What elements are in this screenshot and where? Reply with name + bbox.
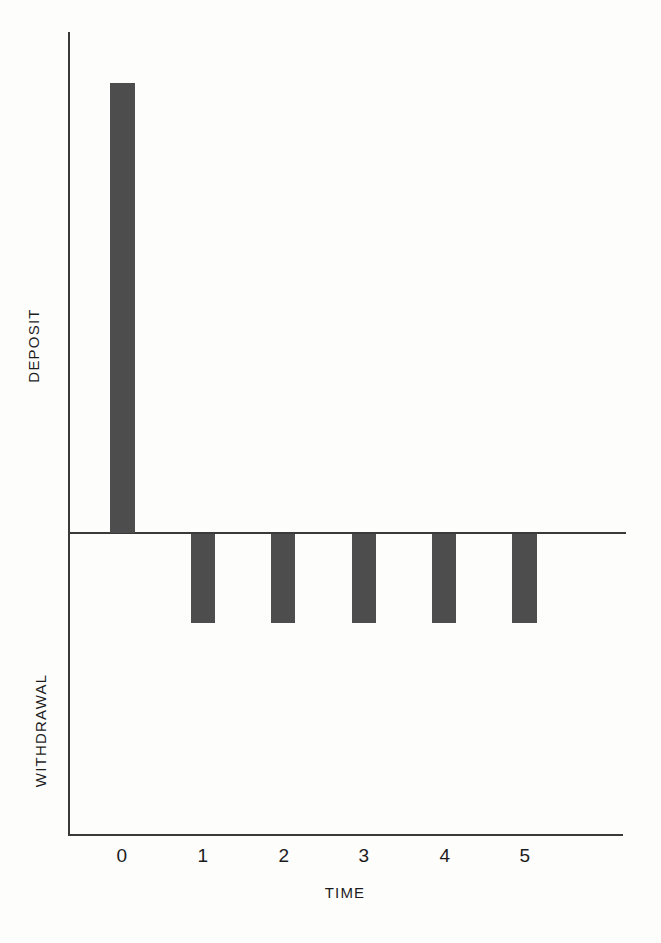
y-axis-label-withdrawal: WITHDRAWAL <box>32 651 49 811</box>
withdrawal-bar-2 <box>271 534 295 623</box>
x-axis-label-time: TIME <box>305 884 385 901</box>
y-axis-label-deposit: DEPOSIT <box>25 286 42 406</box>
withdrawal-bar-5 <box>512 534 537 623</box>
x-tick-label-1: 1 <box>183 845 223 867</box>
deposit-bar-0 <box>110 83 135 533</box>
withdrawal-bar-1 <box>191 534 215 623</box>
zero-baseline <box>68 532 626 534</box>
x-tick-label-3: 3 <box>344 845 384 867</box>
cash-flow-diagram: 012345 DEPOSIT WITHDRAWAL TIME <box>0 0 661 943</box>
withdrawal-bar-3 <box>352 534 376 623</box>
x-tick-label-5: 5 <box>505 845 545 867</box>
x-tick-label-2: 2 <box>264 845 304 867</box>
x-tick-label-0: 0 <box>102 845 142 867</box>
x-tick-label-4: 4 <box>425 845 465 867</box>
y-axis-line <box>68 32 70 836</box>
withdrawal-bar-4 <box>432 534 456 623</box>
x-axis-line <box>68 834 623 836</box>
